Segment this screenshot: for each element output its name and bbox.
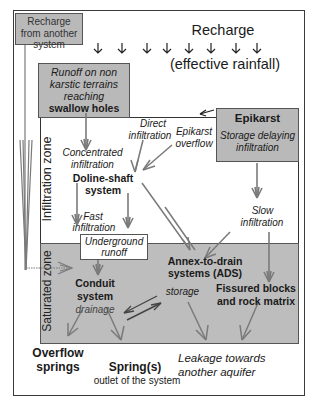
overflow-springs-label-1: Overflow [28, 347, 88, 361]
recharge-title: Recharge [168, 22, 278, 39]
epikarst-line2: infiltration [217, 142, 298, 154]
leakage-label-2: another aquifer [178, 366, 278, 379]
ads-label-1: Annex-to-drain [165, 255, 245, 267]
conduit-label-2: system [70, 290, 120, 302]
infiltration-zone-label: Infiltration zone [40, 124, 54, 234]
recharge-from-other-label: Recharge from another system [18, 16, 80, 51]
saturated-zone-label: Saturated zone [40, 249, 54, 333]
slow-label-1: Slow [245, 205, 280, 217]
epikarst-box: Epikarst Storage delaying infiltration [216, 108, 299, 162]
runoff-line3: reaching [39, 90, 129, 102]
direct-infiltration-label-1: Direct [133, 118, 173, 130]
doline-label-1: Doline-shaft [68, 172, 138, 184]
storage-label: storage [160, 286, 205, 298]
runoff-line2: karstic terrains [39, 78, 129, 90]
runoff-box: Runoff on non karstic terrains reaching … [38, 63, 130, 118]
concentrated-label-2: infiltration [60, 159, 125, 171]
recharge-from-other-system-box: Recharge from another system [15, 13, 83, 45]
epikarst-overflow-label-1: Epikarst [172, 126, 216, 138]
underground-runoff-line1: Underground [81, 236, 147, 248]
doline-label-2: system [68, 184, 138, 196]
fast-label-2: infiltration [68, 222, 120, 234]
conduit-label-1: Conduit [70, 277, 120, 289]
slow-label-2: infiltration [233, 217, 291, 229]
overflow-springs-label-2: springs [28, 361, 88, 375]
leakage-label-1: Leakage towards [178, 352, 278, 365]
drainage-label: drainage [70, 304, 120, 316]
runoff-line4: swallow holes [39, 102, 129, 114]
epikarst-title: Epikarst [217, 112, 298, 125]
recharge-subtitle: (effective rainfall) [160, 56, 290, 73]
direct-infiltration-label-2: infiltration [120, 130, 180, 142]
fissured-label-2: and rock matrix [214, 295, 298, 307]
fast-label-1: Fast [78, 211, 108, 223]
runoff-line1: Runoff on non [39, 66, 129, 78]
epikarst-overflow-label-2: overflow [172, 138, 216, 150]
underground-runoff-line2: runoff [81, 247, 147, 259]
springs-sublabel: outlet of the system [82, 375, 192, 387]
springs-label: Spring(s) [100, 361, 170, 375]
underground-runoff-box: Underground runoff [80, 234, 148, 260]
ads-label-2: systems (ADS) [165, 267, 245, 279]
concentrated-label-1: Concentrated [55, 147, 130, 159]
epikarst-line1: Storage delaying [217, 130, 298, 142]
fissured-label-1: Fissured blocks [214, 282, 298, 294]
